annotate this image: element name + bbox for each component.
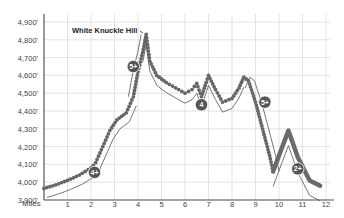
route-bold-line	[273, 131, 320, 186]
route-dot	[187, 90, 191, 94]
x-tick-label: 8	[230, 200, 234, 209]
route-dot	[139, 57, 143, 61]
route-dot	[144, 33, 148, 37]
annotation-leader	[140, 31, 143, 33]
y-tick-label: 4,600'	[18, 71, 39, 80]
badge-label: 2+	[294, 165, 302, 172]
x-axis-title: Miles	[22, 199, 41, 208]
y-tick-label: 4,000'	[18, 178, 39, 187]
route-dot	[193, 85, 197, 89]
x-tick-label: 12	[322, 200, 330, 209]
y-axis-labels: 4,900'4,800'4,700'4,600'4,500'4,400'4,30…	[18, 18, 39, 205]
x-tick-label: 1	[65, 200, 69, 209]
x-tick-label: 10	[275, 200, 283, 209]
difficulty-badge: 2+	[292, 163, 304, 175]
route-dot	[146, 46, 150, 50]
x-tick-label: 3	[112, 200, 116, 209]
y-tick-label: 4,900'	[18, 18, 39, 27]
difficulty-badge: 4	[195, 99, 207, 111]
route-dot	[147, 49, 151, 53]
route-dot	[177, 88, 181, 92]
y-tick-label: 4,800'	[18, 36, 39, 45]
badge-label: 5+	[129, 63, 137, 70]
route-dot	[204, 81, 208, 85]
difficulty-badge: 5+	[259, 96, 271, 108]
x-axis-labels: 123456789101112	[65, 200, 330, 209]
route-dot	[214, 88, 218, 92]
x-tick-label: 6	[183, 200, 187, 209]
annotations: White Knuckle Hill	[72, 26, 143, 35]
y-tick-label: 4,200'	[18, 143, 39, 152]
x-tick-label: 2	[89, 200, 93, 209]
x-tick-label: 4	[136, 200, 140, 209]
badge-label: 4	[199, 101, 203, 108]
route-dot	[269, 160, 273, 164]
route-dot	[147, 56, 151, 60]
route-dot	[183, 91, 187, 95]
x-tick-label: 11	[299, 200, 307, 209]
x-tick-label: 7	[206, 200, 210, 209]
route-dot	[196, 85, 200, 89]
difficulty-badge: 5+	[127, 60, 139, 72]
route-dot	[145, 39, 149, 43]
route-dot	[145, 36, 149, 40]
y-tick-label: 4,300'	[18, 125, 39, 134]
elevation-chart: 4,900'4,800'4,700'4,600'4,500'4,400'4,30…	[0, 0, 344, 218]
route-dot	[167, 82, 171, 86]
y-tick-label: 4,400'	[18, 107, 39, 116]
route-dot	[197, 88, 201, 92]
difficulty-badge: 4+	[88, 166, 100, 178]
route-dot	[146, 43, 150, 47]
y-tick-label: 4,100'	[18, 160, 39, 169]
route-dot	[268, 157, 272, 161]
route-dot	[131, 95, 135, 99]
route-dot	[268, 154, 272, 158]
y-tick-label: 4,500'	[18, 89, 39, 98]
route-dot	[190, 88, 194, 92]
x-tick-label: 9	[253, 200, 257, 209]
annotation-label: White Knuckle Hill	[72, 26, 137, 35]
badge-label: 5+	[261, 99, 269, 106]
badge-label: 4+	[91, 169, 99, 176]
y-tick-label: 4,700'	[18, 54, 39, 63]
route-dot	[195, 82, 199, 86]
route-dot	[136, 73, 140, 77]
route-dot	[147, 53, 151, 57]
route-dot	[140, 54, 144, 58]
x-tick-label: 5	[159, 200, 163, 209]
